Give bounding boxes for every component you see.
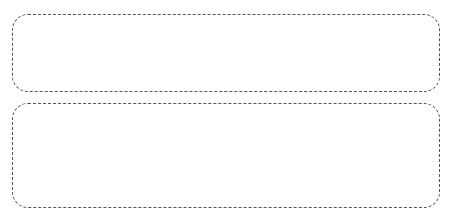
flat-tree-panel bbox=[12, 14, 440, 92]
hierarchical-tree-panel bbox=[12, 103, 440, 208]
